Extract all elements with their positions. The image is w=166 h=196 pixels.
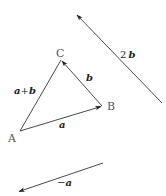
- vector-a-plus-b-label: a+b: [14, 85, 36, 96]
- vector-diagram: A B C a b a+b 2b −a: [0, 0, 166, 196]
- vector-b-arrow: [62, 61, 102, 106]
- vector-2b-label-b: b: [128, 49, 135, 60]
- vector-neg-a-label-a: a: [65, 177, 71, 188]
- vector-2b-label: 2b: [120, 49, 135, 60]
- vector-a-label: a: [59, 119, 65, 130]
- vector-a-plus-b-label-plus: +: [20, 85, 28, 96]
- vector-2b-label-coef: 2: [120, 49, 126, 60]
- vector-neg-a-label-minus: −: [57, 177, 65, 188]
- vector-neg-a-label: −a: [57, 177, 72, 188]
- vector-a-plus-b-label-b: b: [29, 85, 36, 96]
- point-label-b: B: [107, 100, 115, 113]
- point-label-a: A: [7, 132, 17, 145]
- vector-b-label: b: [86, 72, 93, 83]
- point-label-c: C: [56, 47, 64, 60]
